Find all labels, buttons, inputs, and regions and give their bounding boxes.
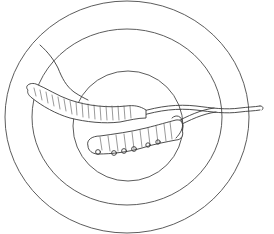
- upper-caterpillar: [27, 83, 146, 122]
- illustration-canvas: [0, 0, 274, 234]
- cordyceps-illustration: [0, 0, 274, 234]
